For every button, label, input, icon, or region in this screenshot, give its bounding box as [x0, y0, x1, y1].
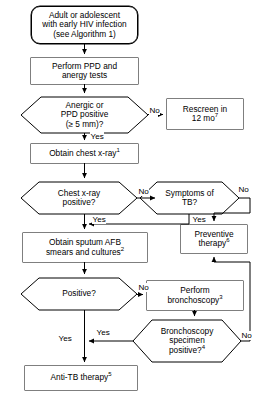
node-chest-xray: Obtain chest x-ray1 — [31, 144, 138, 163]
chest-xray-line1: Obtain chest x-ray — [49, 148, 116, 158]
node-positive-decision: Positive? — [21, 278, 137, 310]
edge-label-symptoms-yes: Yes — [192, 215, 206, 224]
bronch-line3-wrap: positive?4 — [161, 346, 214, 355]
node-bronchoscopy: Perform bronchoscopy3 — [147, 281, 243, 310]
ppd-test-line2: anergy tests — [52, 71, 117, 80]
rescreen-sup: 7 — [215, 112, 218, 118]
edge-label-anergic-yes: Yes — [90, 132, 104, 141]
rescreen-line2-wrap: 12 mo7 — [183, 114, 227, 123]
edge-label-symptoms-no: No — [238, 185, 249, 194]
node-start: Adult or adolescent with early HIV infec… — [31, 6, 138, 44]
bronch-sup: 4 — [202, 344, 205, 350]
antitb-line1: Anti-TB therapy — [51, 372, 109, 382]
node-preventive: Preventive therapy6 — [181, 225, 247, 253]
node-xray-decision: Chest x-ray positive? — [21, 182, 137, 214]
chest-xray-line1-wrap: Obtain chest x-ray1 — [49, 149, 120, 158]
edge-label-xray-yes: Yes — [92, 215, 106, 224]
node-bronch-decision: Bronchoscopy specimen positive?4 — [133, 320, 241, 362]
bronchoscopy-sup: 3 — [219, 294, 222, 300]
node-rescreen: Rescreen in 12 mo7 — [167, 99, 243, 129]
node-anergic-decision: Anergic or PPD positive (≥ 5 mm)? — [21, 97, 148, 133]
node-antitb: Anti-TB therapy5 — [25, 366, 137, 390]
node-symptoms-decision: Symptoms of TB? — [140, 182, 239, 214]
start-line3: (see Algorithm 1) — [42, 30, 126, 39]
sputum-line2-wrap: smears and cultures2 — [46, 248, 124, 257]
sputum-sup: 2 — [121, 246, 124, 252]
symptoms-line2: TB? — [165, 198, 213, 207]
xray-decision-line2: positive? — [58, 198, 100, 207]
bronchoscopy-line2-wrap: bronchoscopy3 — [167, 296, 222, 305]
preventive-sup: 6 — [226, 237, 229, 243]
antitb-line1-wrap: Anti-TB therapy5 — [51, 373, 112, 382]
sputum-line2: smears and cultures — [46, 247, 121, 257]
chest-xray-sup: 1 — [116, 147, 119, 153]
edge-label-positive-yes: Yes — [58, 334, 72, 343]
edge-label-xray-no: No — [138, 187, 149, 196]
node-ppd-test: Perform PPD and anergy tests — [31, 58, 138, 84]
rescreen-line2: 12 mo — [192, 113, 215, 123]
preventive-line2-wrap: therapy6 — [194, 239, 233, 248]
antitb-sup: 5 — [108, 372, 111, 378]
node-sputum: Obtain sputum AFB smears and cultures2 — [23, 233, 147, 262]
positive-decision-line1: Positive? — [62, 289, 96, 298]
anergic-line3: (≥ 5 mm)? — [61, 120, 109, 129]
edge-label-positive-no: No — [138, 283, 149, 292]
edge-label-bronch-no: No — [241, 331, 252, 340]
edge-label-anergic-no: No — [149, 106, 160, 115]
preventive-line2: therapy — [198, 238, 226, 248]
edge-label-bronch-yes: Yes — [96, 328, 110, 337]
bronchoscopy-line2: bronchoscopy — [167, 295, 219, 305]
bronch-line3: positive? — [169, 345, 202, 355]
